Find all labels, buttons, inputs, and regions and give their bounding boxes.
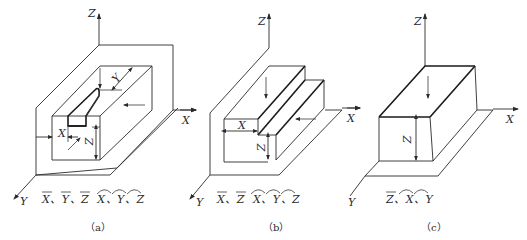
panel-a-x-dimension-label: X — [58, 128, 66, 139]
panel-a-z-dimension-label: Z — [84, 138, 95, 146]
panel-c-z-axis-label: Z — [414, 16, 422, 27]
panel-c-x-axis-label: X — [506, 114, 514, 125]
panel-b-x-axis-label: X — [347, 113, 355, 124]
panel-c-z-dimension-label: Z — [402, 136, 413, 144]
panel-c-caption: （c） — [421, 223, 447, 233]
panel-a-y-axis-label: Y — [20, 196, 27, 207]
panel-c-drawing — [347, 14, 518, 196]
panel-c-y-axis-label: Y — [348, 197, 355, 208]
panel-b-y-axis-label: Y — [196, 197, 203, 208]
panel-b-drawing — [180, 14, 360, 199]
panel-a-drawing — [14, 14, 196, 199]
panel-b-z-dimension-label: Z — [256, 144, 267, 152]
panel-a-x-axis-label: X — [182, 115, 190, 126]
panel-b-caption: （b） — [263, 223, 289, 233]
panel-b-x-dimension-label: X — [238, 120, 246, 131]
panel-a-z-axis-label: Z — [88, 8, 96, 19]
panel-c-constraints-label: Z、X、Y — [386, 194, 433, 205]
panel-a-constraints-label: X、Y、Z X、Y、Z — [42, 194, 145, 205]
workpiece-locating-figure: Z X Y Y X Z X、Y、Z X、Y、Z （a） Z X Y X Z X、… — [0, 0, 527, 240]
panel-a-caption: （a） — [85, 223, 111, 233]
panel-b-z-axis-label: Z — [258, 16, 266, 27]
panel-b-constraints-label: X、Z X、Y、Z — [217, 194, 300, 205]
